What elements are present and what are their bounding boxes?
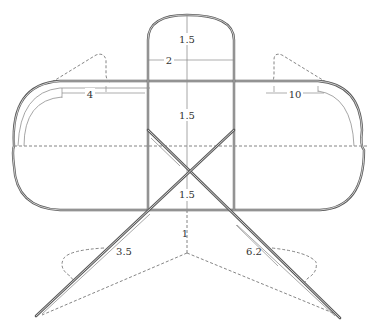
- label-left-span: 4: [87, 89, 93, 100]
- left-inner-curve-1: [18, 88, 150, 146]
- structural-diagram: 1.5 2 1.5 1.5 4 10 3.5 6.2 1: [0, 0, 378, 326]
- dimensions: [62, 60, 324, 266]
- right-inner-curve: [318, 91, 354, 146]
- label-left-leg: 3.5: [116, 246, 132, 257]
- label-upper-panel-height: 1.5: [179, 110, 195, 121]
- brace-left-to-right-leg-inner: [148, 130, 340, 318]
- right-leg-parallel: [237, 225, 335, 316]
- x-brace: [36, 130, 340, 318]
- label-turret-height: 1.5: [179, 34, 195, 45]
- left-leg-parallel: [42, 214, 150, 314]
- right-leg-dashed-outline: [187, 253, 338, 315]
- label-right-span: 10: [289, 89, 302, 100]
- dimension-labels: 1.5 2 1.5 1.5 4 10 3.5 6.2 1: [85, 33, 303, 257]
- label-right-leg: 6.2: [246, 246, 262, 257]
- left-leg-dashed-outline: [42, 253, 187, 315]
- brace-right-to-left-leg-inner: [36, 130, 234, 316]
- label-lower-panel-height: 1.5: [179, 189, 195, 200]
- label-center-drop: 1: [182, 228, 188, 239]
- brace-parallel: [151, 138, 180, 166]
- left-wing-dashed-outline: [52, 54, 110, 82]
- right-wing-dashed-outline: [272, 54, 326, 82]
- label-turret-width: 2: [166, 55, 172, 66]
